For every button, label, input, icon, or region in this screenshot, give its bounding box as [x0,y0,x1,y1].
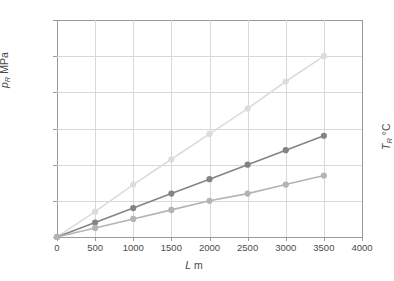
data-point-marker [321,53,327,59]
y2-axis-label-variable: T [380,144,392,150]
y-axis-label-left: pR MPa [0,52,12,88]
data-point-marker [130,205,136,211]
data-point-marker [168,191,174,197]
data-point-marker [130,216,136,222]
data-point-marker [283,181,289,187]
data-point-marker [168,207,174,213]
x-axis-tick [248,237,249,241]
series-layer [57,20,362,237]
y-axis-label-right: TR °C [380,123,394,150]
y-axis-label-variable: p [0,82,10,88]
data-point-marker [321,172,327,178]
y-axis-label-subscript: R [3,77,12,82]
data-point-marker [321,133,327,139]
data-point-marker [206,131,212,137]
data-point-marker [245,162,251,168]
series-series-mid [54,172,327,240]
data-point-marker [245,106,251,112]
data-point-marker [168,156,174,162]
data-point-marker [130,181,136,187]
x-axis-tick [133,237,134,241]
data-point-marker [206,176,212,182]
x-axis-tick [171,237,172,241]
plot-area [57,20,362,237]
y-axis-label-unit: MPa [0,52,10,74]
x-axis-label-variable: L [185,259,191,271]
y2-axis-label-subscript: R [385,138,394,143]
x-axis-tick [362,237,363,241]
y2-axis-label-unit: °C [380,123,392,135]
x-axis-tick [286,237,287,241]
data-point-marker [54,234,60,240]
x-axis-tick-label: 4000 [340,243,384,253]
data-point-marker [283,78,289,84]
x-axis-tick [210,237,211,241]
x-axis-label: L m [0,259,388,271]
x-axis-tick [95,237,96,241]
x-axis-label-unit: m [194,259,203,271]
data-point-marker [92,219,98,225]
data-point-marker [283,147,289,153]
data-point-marker [245,191,251,197]
y2-axis-line [362,20,363,238]
data-point-marker [206,198,212,204]
x-axis-tick [324,237,325,241]
data-point-marker [92,225,98,231]
data-point-marker [92,209,98,215]
series-series-light [54,53,327,240]
